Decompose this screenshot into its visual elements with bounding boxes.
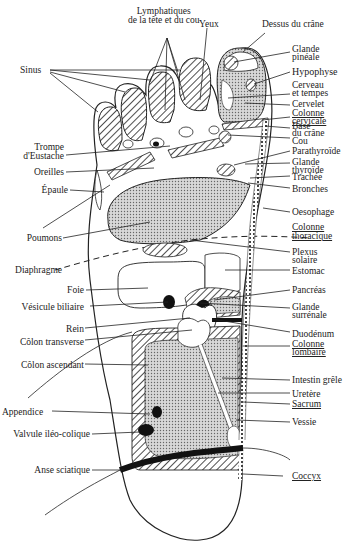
- label-poumons: Poumons: [2, 234, 62, 243]
- label-colonne-lombaire: Colonne lombaire: [292, 340, 326, 356]
- label-estomac: Estomac: [292, 267, 325, 276]
- label-intestin-grele: Intestin grêle: [292, 376, 342, 385]
- label-trachee: Trachée: [292, 173, 322, 182]
- label-trompe-line2: d'Eustache: [2, 152, 64, 161]
- label-cou: Cou: [292, 137, 308, 146]
- label-pancreas: Pancréas: [292, 286, 326, 295]
- label-vesicule: Vésicule biliaire: [2, 303, 84, 312]
- label-yeux: Yeux: [199, 20, 219, 29]
- label-valvule: Valvule iléo-colique: [2, 430, 90, 439]
- label-plexus-solaire: Plexus solaire: [292, 248, 317, 264]
- label-base-crane: Base du crâne: [292, 123, 324, 137]
- label-diaphragme: Diaphragme: [2, 266, 62, 275]
- label-cerveau: Cerveau et tempes: [292, 81, 328, 97]
- label-bronches: Bronches: [292, 185, 328, 194]
- label-lymphatiques-line2: de la tête et du cou: [128, 16, 199, 25]
- label-glande-surrenale-line2: surrénale: [292, 311, 327, 319]
- label-oesophage: Oesophage: [292, 208, 334, 217]
- label-oreilles: Oreilles: [2, 168, 64, 177]
- label-anse-sciatique: Anse sciatique: [2, 466, 90, 475]
- label-vessie: Vessie: [292, 418, 316, 427]
- label-colon-transverse: Côlon transverse: [2, 338, 84, 347]
- label-parathyroide: Parathyroïde: [292, 147, 341, 156]
- label-glande-surrenale: Glande surrénale: [292, 303, 327, 319]
- label-plexus-line2: solaire: [292, 256, 317, 264]
- label-colonne-thoracique: Colonne thoracique: [292, 223, 332, 241]
- label-colon-ascendant: Côlon ascendant: [2, 361, 84, 370]
- label-dessus-crane: Dessus du crâne: [262, 20, 324, 29]
- label-foie: Foie: [2, 286, 84, 295]
- label-colonne-lombaire-line2: lombaire: [292, 348, 326, 356]
- label-duodenum: Duodénum: [292, 330, 334, 339]
- label-glande-pineale: Glande pinéale: [292, 45, 319, 61]
- label-colonne-thoracique-line2: thoracique: [292, 232, 332, 241]
- label-coccyx: Coccyx: [292, 472, 321, 481]
- label-uretere: Uretère: [292, 390, 320, 399]
- label-sinus: Sinus: [20, 66, 41, 75]
- label-trompe: Trompe d'Eustache: [2, 143, 64, 161]
- label-epaule: Épaule: [2, 186, 68, 195]
- label-hypophyse: Hypophyse: [292, 67, 338, 76]
- label-appendice: Appendice: [2, 408, 43, 417]
- label-cerveau-line2: et tempes: [292, 89, 328, 97]
- label-sacrum: Sacrum: [292, 400, 321, 409]
- label-rein: Rein: [2, 325, 84, 334]
- label-lymphatiques: Lymphatiques de la tête et du cou: [128, 7, 199, 25]
- label-glande-pineale-line2: pinéale: [292, 53, 319, 61]
